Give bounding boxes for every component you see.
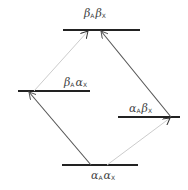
level-label-aa: αAαX xyxy=(91,170,116,181)
nucleus-subscript: A xyxy=(136,107,140,114)
nucleus-subscript: A xyxy=(70,81,74,88)
nucleus-subscript: A xyxy=(90,12,94,19)
level-label-bb: βAβX xyxy=(84,8,107,19)
nucleus-subscript: X xyxy=(102,12,106,19)
spin-symbol: α xyxy=(75,76,82,89)
nucleus-subscript: X xyxy=(111,174,115,181)
spin-symbol: β xyxy=(142,102,148,115)
energy-level-diagram xyxy=(0,0,188,190)
spin-symbol: β xyxy=(95,7,101,20)
nucleus-subscript: X xyxy=(83,81,87,88)
transition-arrow-aa-to-ba xyxy=(29,92,91,165)
spin-symbol: α xyxy=(104,169,111,182)
level-label-ab: αAβX xyxy=(129,103,153,114)
transition-arrow-aa-to-ab xyxy=(107,118,170,165)
level-label-ba: βAαX xyxy=(64,77,88,88)
nucleus-subscript: X xyxy=(148,107,152,114)
nucleus-subscript: A xyxy=(98,174,102,181)
